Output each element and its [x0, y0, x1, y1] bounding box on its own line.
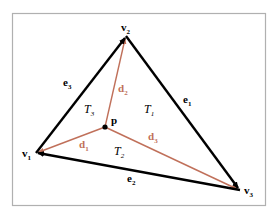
point-p — [102, 124, 107, 129]
triangle-diagram: v2 v1 v3 p e3 e1 e2 d2 d1 d3 T3 T1 T2 — [0, 0, 278, 217]
diagram-frame — [13, 14, 266, 206]
point-label-p: p — [111, 114, 117, 126]
